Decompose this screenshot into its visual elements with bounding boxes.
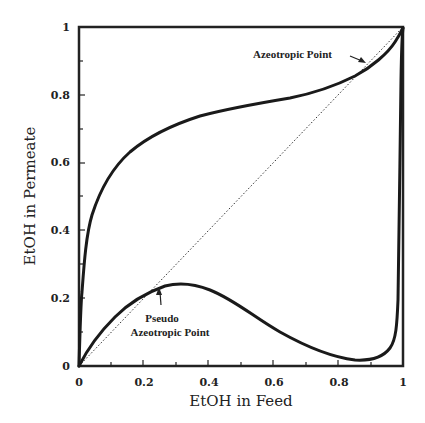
- y-tick-label: 0.2: [51, 292, 70, 305]
- x-axis-title: EtOH in Feed: [189, 392, 293, 410]
- x-tick-label: 0: [75, 376, 83, 389]
- y-axis-title: EtOH in Permeate: [21, 126, 39, 265]
- y-tick-label: 1: [62, 21, 70, 34]
- y-tick-label: 0.8: [51, 89, 70, 102]
- y-tick-label: 0.6: [51, 156, 70, 169]
- x-tick-label: 0.2: [134, 376, 153, 389]
- x-tick-label: 1: [399, 376, 407, 389]
- y-tick-labels: 0 0.2 0.4 0.6 0.8 1: [51, 21, 70, 373]
- x-tick-label: 0.8: [329, 376, 348, 389]
- azeotropic-point-label: Azeotropic Point: [253, 48, 332, 60]
- x-tick-label: 0.6: [264, 376, 283, 389]
- y-tick-label: 0: [62, 360, 70, 373]
- x-tick-labels: 0 0.2 0.4 0.6 0.8 1: [75, 376, 407, 389]
- azeotropic-arrowhead-icon: [358, 57, 366, 63]
- y-tick-label: 0.4: [51, 224, 70, 237]
- chart: 0 0.2 0.4 0.6 0.8 1 0 0.2 0.4 0.6 0.8 1 …: [0, 0, 425, 423]
- pseudo-azeotropic-label-line1: Pseudo: [145, 312, 179, 324]
- x-tick-label: 0.4: [199, 376, 218, 389]
- pseudo-azeotropic-label-line2: Azeotropic Point: [131, 326, 210, 338]
